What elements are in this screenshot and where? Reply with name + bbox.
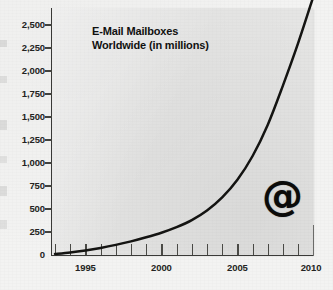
x-tick-mark-2000 xyxy=(161,244,162,255)
plot-right-border xyxy=(313,225,314,256)
y-tick-mark-1250 xyxy=(45,139,52,141)
y-tick-label-1750: 1,750 xyxy=(0,88,45,99)
x-tick-mark-2009 xyxy=(298,244,299,255)
x-tick-label-2005: 2005 xyxy=(214,262,260,273)
y-tick-label-0: 0 xyxy=(0,249,45,260)
x-tick-mark-2003 xyxy=(207,244,208,255)
y-tick-mark-1500 xyxy=(45,116,52,118)
x-tick-label-2000: 2000 xyxy=(138,262,184,273)
y-tick-mark-2500 xyxy=(45,24,52,26)
y-tick-label-1250: 1,250 xyxy=(0,134,45,145)
chart-title-line-2: Worldwide (in millions) xyxy=(92,39,209,51)
chart-title: E-Mail MailboxesWorldwide (in millions) xyxy=(92,25,209,52)
x-tick-mark-1995 xyxy=(85,244,86,255)
y-tick-mark-500 xyxy=(45,208,52,210)
y-tick-label-250: 250 xyxy=(0,226,45,237)
x-tick-mark-2005 xyxy=(237,244,238,255)
chart-title-line-1: E-Mail Mailboxes xyxy=(92,25,178,37)
y-tick-label-500: 500 xyxy=(0,203,45,214)
x-tick-mark-1999 xyxy=(146,244,147,255)
y-tick-label-2500: 2,500 xyxy=(0,19,45,30)
y-tick-mark-2000 xyxy=(45,70,52,72)
y-tick-label-750: 750 xyxy=(0,180,45,191)
y-tick-label-2000: 2,000 xyxy=(0,65,45,76)
x-tick-mark-1997 xyxy=(116,244,117,255)
x-tick-mark-2004 xyxy=(222,244,223,255)
x-tick-mark-1996 xyxy=(101,244,102,255)
y-tick-label-2250: 2,250 xyxy=(0,42,45,53)
chart-figure: 2,500 2,250 2,000 1,750 1,500 1,250 1,00… xyxy=(0,0,333,290)
y-tick-mark-2250 xyxy=(45,47,52,49)
y-tick-mark-250 xyxy=(45,231,52,233)
x-tick-mark-1993 xyxy=(55,244,56,255)
x-tick-mark-1994 xyxy=(70,244,71,255)
at-symbol-icon: @ xyxy=(262,176,303,217)
x-axis-line xyxy=(51,255,314,256)
x-tick-mark-2007 xyxy=(268,244,269,255)
y-tick-label-1500: 1,500 xyxy=(0,111,45,122)
x-tick-mark-2008 xyxy=(283,244,284,255)
y-tick-mark-750 xyxy=(45,185,52,187)
x-tick-mark-2006 xyxy=(253,244,254,255)
x-tick-mark-1998 xyxy=(131,244,132,255)
x-tick-mark-2001 xyxy=(177,244,178,255)
y-tick-mark-1750 xyxy=(45,93,52,95)
x-tick-mark-2002 xyxy=(192,244,193,255)
y-tick-label-1000: 1,000 xyxy=(0,157,45,168)
x-tick-label-2010: 2010 xyxy=(288,262,333,273)
y-tick-mark-1000 xyxy=(45,162,52,164)
x-tick-label-1995: 1995 xyxy=(62,262,108,273)
y-axis-line xyxy=(51,8,52,256)
